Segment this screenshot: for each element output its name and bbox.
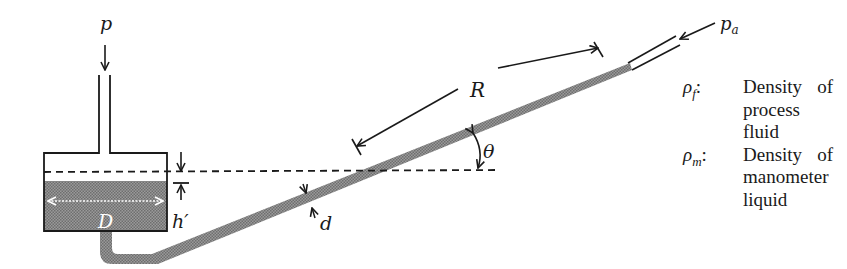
tube-liquid <box>100 63 632 264</box>
datum-dashed-line <box>44 170 500 172</box>
legend-item-manometer-liquid: ρm: Densityof manometer liquid <box>683 144 833 212</box>
reading-length-label: R <box>469 78 485 102</box>
legend-description-manometer-liquid: Densityof manometer liquid <box>743 144 833 212</box>
legend-description-process-fluid: Densityof process fluid <box>743 76 833 144</box>
legend-symbol-rho-m: ρm: <box>683 144 743 212</box>
angle-arc <box>473 133 480 168</box>
angle-label: θ <box>483 140 495 162</box>
level-drop-indicator <box>173 152 189 200</box>
inlet-pressure-label: p <box>100 12 112 34</box>
tube-diameter-label: d <box>320 212 332 234</box>
level-drop-label: h′ <box>172 210 189 232</box>
atmospheric-pressure-label: pa <box>720 13 739 37</box>
atmospheric-pressure-arrow <box>680 23 715 39</box>
legend: ρf: Densityof process fluid ρm: Densityo… <box>683 76 833 211</box>
diameter-label: D <box>97 210 113 232</box>
legend-item-process-fluid: ρf: Densityof process fluid <box>683 76 833 144</box>
legend-symbol-rho-f: ρf: <box>683 76 743 144</box>
